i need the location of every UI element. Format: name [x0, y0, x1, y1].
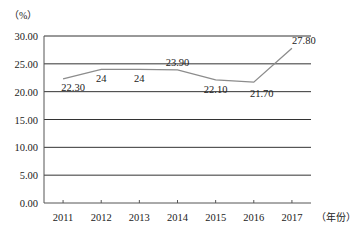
y-tick-label: 25.00: [14, 59, 38, 70]
data-label: 22.10: [204, 84, 228, 95]
y-axis-unit-label: （%）: [9, 10, 37, 21]
line-chart: 0.005.0010.0015.0020.0025.0030.00 201120…: [0, 0, 355, 236]
y-axis-ticks: 0.005.0010.0015.0020.0025.0030.00: [14, 31, 38, 209]
y-tick-label: 15.00: [14, 115, 38, 126]
x-tick-label: 2011: [53, 212, 74, 223]
y-tick-label: 10.00: [14, 142, 38, 153]
y-tick-label: 0.00: [20, 198, 38, 209]
x-tick-label: 2012: [91, 212, 112, 223]
data-label: 22.30: [61, 82, 85, 93]
data-label: 24: [96, 73, 107, 84]
x-tick-label: 2014: [167, 212, 189, 223]
data-labels: 22.30242423.9022.1021.7027.80: [61, 35, 315, 99]
x-tick-label: 2016: [243, 212, 264, 223]
data-label: 27.80: [292, 35, 316, 46]
data-label: 21.70: [250, 88, 274, 99]
data-label: 23.90: [166, 57, 190, 68]
y-tick-label: 20.00: [14, 87, 38, 98]
x-axis-unit-label: （年份）: [316, 211, 355, 223]
data-label: 24: [134, 73, 145, 84]
x-tick-label: 2017: [281, 212, 302, 223]
y-tick-label: 30.00: [14, 31, 38, 42]
y-tick-label: 5.00: [20, 170, 38, 181]
x-tick-label: 2013: [129, 212, 150, 223]
x-tick-label: 2015: [205, 212, 226, 223]
